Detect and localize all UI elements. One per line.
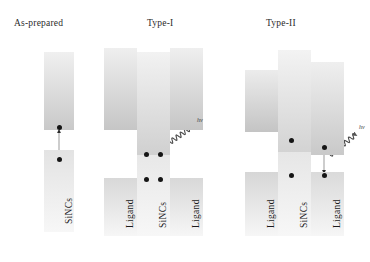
type-i-electron-conduction-left xyxy=(144,152,149,157)
type-i-electron-valence-right xyxy=(158,177,163,182)
type-ii-electron-conduction-ligand xyxy=(322,145,327,150)
type-i-ligand-right-valence-band-label: Ligand xyxy=(191,199,201,228)
type-i-ligand-left-valence-band-label: Ligand xyxy=(125,199,135,228)
type-ii-sincs-valence-band-label: SiNCs xyxy=(299,202,309,228)
band-alignment-figure: As-preparedSiNCsType-ILigandSiNCsLigandh… xyxy=(0,0,370,262)
panel-title-type-ii: Type-II xyxy=(266,18,296,28)
type-ii-sincs-conduction-band xyxy=(278,50,311,155)
type-i-sincs-valence-band-label: SiNCs xyxy=(158,202,168,228)
type-ii-ligand-left-conduction-band xyxy=(245,70,278,132)
type-i-electron-valence-left xyxy=(144,177,149,182)
type-ii-ligand-left-valence-band-label: Ligand xyxy=(266,199,276,228)
panel-title-type-i: Type-I xyxy=(147,18,173,28)
type-i-sincs-conduction-band xyxy=(137,52,170,158)
type-ii-electron-valence-sincs xyxy=(289,173,294,178)
type-i-photon-label: hv xyxy=(197,117,203,123)
type-ii-electron-conduction-sincs xyxy=(289,138,294,143)
type-ii-photon-label: hv xyxy=(359,124,365,130)
panel-title-as-prepared: As-prepared xyxy=(14,18,63,28)
type-ii-electron-valence-ligand xyxy=(322,173,327,178)
as-prepared-electron-valence xyxy=(57,157,62,162)
type-i-ligand-left-conduction-band xyxy=(104,48,137,130)
type-ii-ligand-right-valence-band-label: Ligand xyxy=(332,199,342,228)
as-prepared-sincs-conduction-band xyxy=(44,52,74,130)
as-prepared-sincs-valence-band-label: SiNCs xyxy=(64,198,74,224)
type-i-electron-conduction-right xyxy=(158,152,163,157)
as-prepared-electron-conduction xyxy=(57,125,62,130)
type-ii-ligand-right-conduction-band xyxy=(311,62,344,155)
